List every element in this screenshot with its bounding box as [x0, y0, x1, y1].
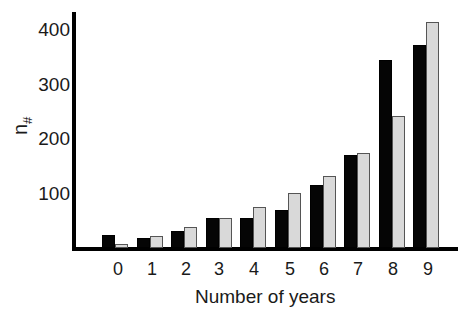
bar-5-black: [275, 210, 288, 248]
bar-6-gray: [323, 176, 336, 248]
bar-0-black: [102, 235, 115, 248]
bar-6-black: [310, 185, 323, 248]
bar-2-gray: [184, 227, 197, 248]
x-tick-3: 3: [209, 260, 229, 278]
y-tick-400: 400: [10, 20, 70, 39]
x-axis-label: Number of years: [195, 287, 335, 307]
bar-2-black: [171, 231, 184, 248]
x-tick-0: 0: [108, 260, 128, 278]
bar-3-black: [206, 218, 219, 248]
x-tick-7: 7: [348, 260, 368, 278]
bar-3-gray: [219, 218, 232, 248]
bar-5-gray: [288, 193, 301, 248]
y-tick-200: 200: [10, 129, 70, 148]
x-tick-2: 2: [176, 260, 196, 278]
bar-7-gray: [357, 153, 370, 248]
bar-9-gray: [426, 22, 439, 248]
x-tick-9: 9: [418, 260, 438, 278]
x-tick-1: 1: [142, 260, 162, 278]
bar-8-black: [379, 60, 392, 248]
x-tick-6: 6: [314, 260, 334, 278]
bar-4-black: [240, 218, 253, 248]
bar-9-black: [413, 45, 426, 248]
bar-7-black: [344, 155, 357, 248]
bar-8-gray: [392, 116, 405, 248]
bar-1-black: [137, 238, 150, 248]
y-tick-300: 300: [10, 75, 70, 94]
bar-4-gray: [253, 207, 266, 248]
y-axis: [72, 12, 76, 251]
x-tick-4: 4: [244, 260, 264, 278]
y-tick-100: 100: [10, 184, 70, 203]
x-tick-5: 5: [280, 260, 300, 278]
bar-chart: n# 400 300 200 100 0 1 2 3 4 5 6 7 8 9 N…: [0, 0, 470, 324]
bar-1-gray: [150, 236, 163, 248]
x-tick-8: 8: [383, 260, 403, 278]
bar-0-gray: [115, 244, 128, 248]
